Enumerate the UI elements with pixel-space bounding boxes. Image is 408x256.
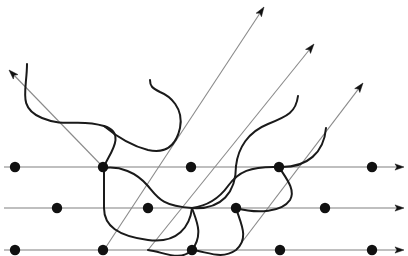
lattice-dot (367, 245, 377, 255)
wave-strands-layer (25, 64, 326, 256)
diagonal-arrow-2-arrowhead-icon (306, 44, 314, 53)
lattice-dot (275, 245, 285, 255)
diagonal-arrow-3 (236, 89, 358, 250)
lattice-dot (231, 203, 241, 213)
lattice-dot (52, 203, 62, 213)
figure-canvas (0, 0, 408, 256)
wave-strand-3 (104, 166, 236, 208)
lattice-dot (367, 162, 377, 172)
lattice-dot (98, 162, 108, 172)
lattice-dot (143, 203, 153, 213)
lattice-dot (186, 162, 196, 172)
lattice-dot (320, 203, 330, 213)
wave-strand-6 (192, 128, 326, 208)
diagonal-arrow-1 (104, 14, 260, 250)
wave-strand-5 (236, 96, 298, 166)
lattice-dot (98, 245, 108, 255)
lattice-dot (187, 245, 197, 255)
wave-strand-7 (192, 208, 243, 255)
lattice-dot (274, 162, 284, 172)
wave-strand-1 (25, 64, 192, 241)
diagonal-arrow-1-arrowhead-icon (256, 7, 264, 17)
lattice-dot (10, 245, 20, 255)
diagonal-arrow-2 (148, 50, 309, 250)
diagram-svg (0, 0, 408, 256)
lattice-dot (10, 162, 20, 172)
diagonal-arrow-3-arrowhead-icon (355, 83, 363, 92)
diagonal-axes-layer (9, 7, 363, 250)
wave-strand-8 (236, 167, 292, 211)
